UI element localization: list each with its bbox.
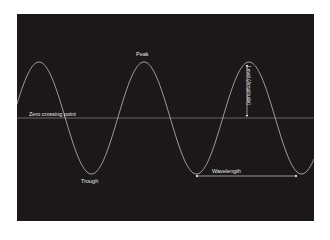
wavelength-label: Wavelength (212, 169, 241, 175)
amplitude-label: Level (Amplitude) (246, 66, 251, 105)
trough-point (295, 175, 297, 177)
trough-label: Trough (81, 179, 98, 185)
zero-crossing-label: Zero crossing point (29, 112, 76, 118)
peak-label: Peak (136, 52, 149, 58)
trough-point (196, 175, 198, 177)
